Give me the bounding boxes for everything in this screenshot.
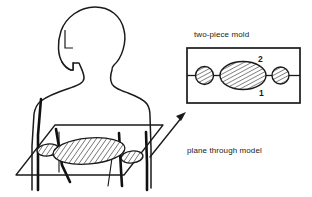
arrow-shaft [150,117,182,157]
technical-illustration: 2 1 two-piece mold plane through model [0,0,312,197]
mold-caption: two-piece mold [194,30,249,39]
two-piece-mold-section: 2 1 [187,48,300,103]
right-arm-cavity [272,67,289,84]
plane-caption: plane through model [187,146,262,155]
left-arm-cavity [196,67,214,85]
diagram-canvas: 2 1 two-piece mold plane through model [0,0,312,197]
arrow-head-icon [176,112,186,121]
construction-line-right [108,158,112,186]
mold-half-lower-label: 1 [259,88,264,98]
torso-section [52,135,126,167]
head-jaw-contour [62,62,73,70]
right-arm-stroke [146,132,147,190]
mold-half-upper-label: 2 [258,54,263,64]
torso-cavity [220,62,266,90]
